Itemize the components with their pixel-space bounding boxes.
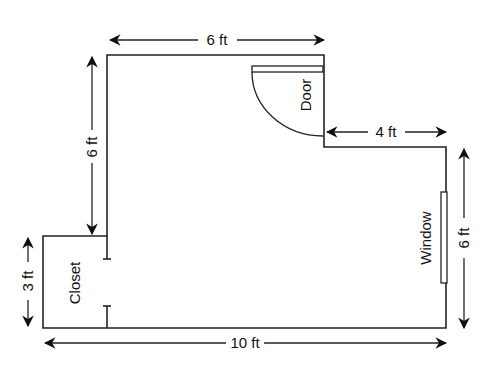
dimension-bottom: 10 ft	[45, 334, 446, 351]
door-label: Door	[297, 79, 314, 112]
dim-left-label: 6 ft	[83, 136, 100, 158]
dimension-step: 4 ft	[327, 123, 446, 140]
window	[441, 192, 447, 283]
dimension-right: 6 ft	[455, 149, 472, 328]
dim-top-label: 6 ft	[207, 31, 229, 48]
dim-step-label: 4 ft	[376, 123, 398, 140]
dimension-left-upper: 6 ft	[83, 57, 100, 234]
window-label: Window	[417, 211, 434, 265]
dimension-top: 6 ft	[110, 31, 324, 48]
closet-label: Closet	[66, 261, 83, 304]
dim-closet-label: 3 ft	[19, 270, 36, 292]
dim-right-label: 6 ft	[455, 227, 472, 249]
floor-plan: 6 ft 6 ft 4 ft 6 ft 3 ft 10 ft Door Wind…	[0, 0, 486, 370]
walls	[43, 55, 446, 328]
dim-bottom-label: 10 ft	[230, 334, 260, 351]
dimension-closet: 3 ft	[19, 238, 36, 326]
